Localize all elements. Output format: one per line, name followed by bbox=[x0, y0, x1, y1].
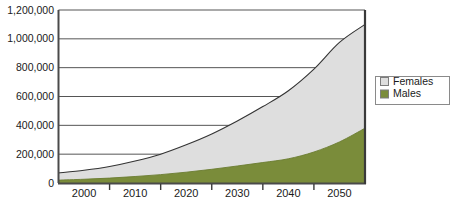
y-axis-tick-label: 0 bbox=[48, 177, 54, 189]
y-axis-tick-label: 1,200,000 bbox=[7, 4, 54, 16]
legend: FemalesMales bbox=[376, 75, 450, 105]
y-axis-tick-label: 800,000 bbox=[16, 61, 54, 73]
legend-label-females: Females bbox=[393, 75, 433, 87]
legend-swatch-females bbox=[381, 78, 389, 86]
x-axis-tick-label: 2040 bbox=[276, 187, 300, 199]
legend-swatch-males bbox=[381, 90, 389, 98]
x-axis-tick-label: 2050 bbox=[327, 187, 351, 199]
area-chart: 0200,000400,000600,000800,0001,000,0001,… bbox=[0, 0, 454, 200]
x-axis-tick-label: 2030 bbox=[225, 187, 249, 199]
y-axis-tick-label: 400,000 bbox=[16, 119, 54, 131]
legend-label-males: Males bbox=[393, 87, 421, 99]
y-axis-tick-label: 200,000 bbox=[16, 148, 54, 160]
x-axis-tick-label: 2020 bbox=[174, 187, 198, 199]
y-axis-tick-label: 600,000 bbox=[16, 90, 54, 102]
x-axis-tick-label: 2000 bbox=[72, 187, 96, 199]
y-axis-tick-label: 1,000,000 bbox=[7, 32, 54, 44]
chart-container: 0200,000400,000600,000800,0001,000,0001,… bbox=[0, 0, 454, 200]
x-axis-tick-label: 2010 bbox=[123, 187, 147, 199]
